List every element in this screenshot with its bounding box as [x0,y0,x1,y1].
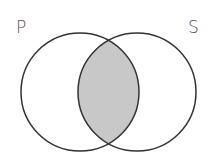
set-s-label: S [188,17,199,37]
venn-diagram: P S [0,0,207,157]
venn-svg: P S [0,0,207,157]
set-p-label: P [16,17,26,37]
